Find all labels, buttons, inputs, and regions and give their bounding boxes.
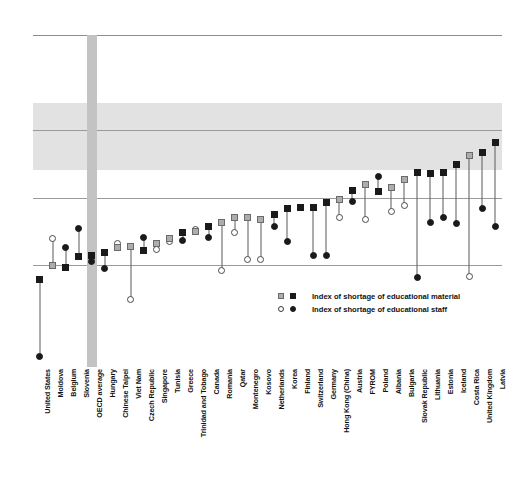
data-column <box>33 35 46 367</box>
x-axis-label: Viet Nam <box>134 369 143 399</box>
marker-material <box>427 170 434 177</box>
data-column <box>476 35 489 367</box>
square-open-icon <box>278 293 284 299</box>
x-axis-label: Moldova <box>56 369 65 397</box>
marker-material <box>479 149 486 156</box>
marker-staff <box>401 202 408 209</box>
marker-material <box>140 247 147 254</box>
x-axis-label: Germany <box>329 369 338 399</box>
marker-staff <box>140 234 147 241</box>
marker-staff <box>375 173 382 180</box>
x-axis-label: Chinese Taipei <box>121 369 130 418</box>
marker-material <box>218 219 225 226</box>
connector-line <box>313 207 314 255</box>
x-axis-label: Lithuania <box>433 369 442 400</box>
connector-line <box>39 279 40 356</box>
connector-line <box>469 156 470 277</box>
marker-material <box>375 188 382 195</box>
data-column <box>150 35 163 367</box>
legend-item-staff: Index of shortage of educational staff <box>278 304 460 314</box>
marker-staff <box>427 219 434 226</box>
marker-staff <box>62 244 69 251</box>
x-axis-label: Montenegro <box>251 369 260 409</box>
marker-material <box>114 244 121 251</box>
marker-material <box>297 204 304 211</box>
marker-staff <box>284 238 291 245</box>
x-axis-label: Slovak Republic <box>420 369 429 423</box>
data-column <box>72 35 85 367</box>
marker-staff <box>479 205 486 212</box>
legend-label-staff: Index of shortage of educational staff <box>312 305 447 314</box>
data-column <box>189 35 202 367</box>
marker-staff <box>310 252 317 259</box>
x-axis-label: Korea <box>290 369 299 389</box>
x-axis-label: FYROM <box>368 369 377 394</box>
marker-material <box>466 152 473 159</box>
x-axis-label: Albania <box>394 369 403 394</box>
marker-staff <box>75 225 82 232</box>
marker-staff <box>323 252 330 259</box>
data-column <box>228 35 241 367</box>
x-axis-label: United States <box>43 369 52 414</box>
data-column <box>202 35 215 367</box>
x-axis-label: Canada <box>212 369 221 394</box>
x-axis-label: Netherlands <box>277 369 286 409</box>
marker-staff <box>453 220 460 227</box>
marker-material <box>323 199 330 206</box>
connector-line <box>365 184 366 219</box>
x-axis-label: Kosovo <box>264 369 273 395</box>
marker-staff <box>49 235 56 242</box>
data-column <box>254 35 267 367</box>
x-axis-label: OECD average <box>95 369 104 418</box>
connector-line <box>456 165 457 224</box>
marker-material <box>453 161 460 168</box>
marker-material <box>401 176 408 183</box>
marker-material <box>88 252 95 259</box>
connector-line <box>443 172 444 217</box>
x-axis-label: Switzerland <box>316 369 325 408</box>
x-axis-label: Austria <box>355 369 364 393</box>
marker-material <box>231 214 238 221</box>
marker-material <box>192 228 199 235</box>
x-axis-label: Bulgaria <box>407 369 416 397</box>
x-axis-label: Qatar <box>238 369 247 387</box>
x-axis-label: Hungary <box>108 369 117 397</box>
square-filled-icon <box>290 293 296 299</box>
legend-marker-staff <box>278 306 304 312</box>
data-column <box>241 35 254 367</box>
marker-material <box>349 187 356 194</box>
x-axis-label: Estonia <box>446 369 455 394</box>
chart-root: United StatesMoldovaBelgiumSloveniaOECD … <box>0 0 530 493</box>
data-column <box>163 35 176 367</box>
circle-filled-icon <box>290 306 296 312</box>
connector-line <box>482 153 483 209</box>
data-column <box>111 35 124 367</box>
connector-line <box>430 174 431 222</box>
marker-staff <box>36 353 43 360</box>
marker-staff <box>349 198 356 205</box>
x-axis-label: Trinidad and Tobago <box>199 369 208 437</box>
marker-staff <box>388 208 395 215</box>
marker-material <box>244 214 251 221</box>
connector-line <box>326 203 327 256</box>
data-column <box>46 35 59 367</box>
marker-material <box>492 139 499 146</box>
marker-staff <box>231 229 238 236</box>
x-axis-label: Belgium <box>69 369 78 397</box>
marker-material <box>127 243 134 250</box>
marker-staff <box>466 273 473 280</box>
data-column <box>59 35 72 367</box>
marker-staff <box>362 216 369 223</box>
x-axis-label: Iceland <box>459 369 468 393</box>
x-axis-label: Singapore <box>160 369 169 403</box>
marker-material <box>49 262 56 269</box>
marker-material <box>101 249 108 256</box>
connector-line <box>260 219 261 260</box>
marker-material <box>36 276 43 283</box>
connector-line <box>221 222 222 270</box>
marker-material <box>62 264 69 271</box>
circle-open-icon <box>278 306 284 312</box>
marker-staff <box>127 296 134 303</box>
marker-staff <box>205 234 212 241</box>
marker-material <box>153 240 160 247</box>
